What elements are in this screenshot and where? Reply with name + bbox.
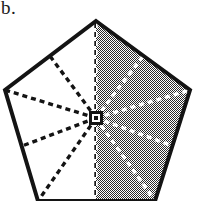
figure-container: b. xyxy=(0,0,200,201)
shaded-half-group xyxy=(96,21,190,201)
spoke-to-M_DE xyxy=(22,118,96,146)
shaded-right-half xyxy=(96,21,190,201)
center-marker xyxy=(91,113,102,124)
center-marker-inner-square xyxy=(94,116,98,120)
pentagon-diagram xyxy=(0,0,200,201)
spoke-to-E xyxy=(5,90,96,118)
spoke-to-M_EA xyxy=(50,56,96,118)
